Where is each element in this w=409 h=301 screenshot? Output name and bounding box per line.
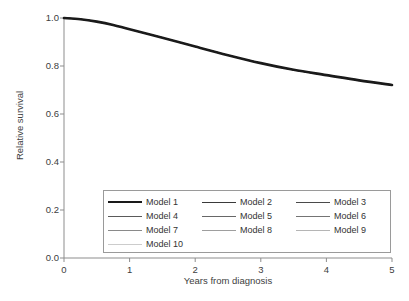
legend-item: Model 5: [200, 211, 294, 221]
legend-label: Model 4: [146, 211, 178, 221]
legend-grid: Model 1Model 2Model 3Model 4Model 5Model…: [106, 195, 388, 251]
legend-line-swatch: [202, 202, 236, 203]
legend-item: Model 10: [106, 239, 200, 249]
x-tick-label: 5: [382, 264, 402, 275]
x-axis-title: Years from diagnosis: [64, 275, 392, 286]
y-tick-label: 0.6: [33, 108, 59, 119]
legend-line-swatch: [202, 230, 236, 231]
legend-line-swatch: [108, 230, 142, 231]
legend-line-swatch: [296, 216, 330, 217]
series-line: [64, 18, 392, 85]
y-tick-label: 0.0: [33, 252, 59, 263]
legend-item: Model 8: [200, 225, 294, 235]
legend-line-swatch: [202, 216, 236, 217]
x-tick-label: 3: [251, 264, 271, 275]
legend-label: Model 1: [146, 197, 178, 207]
legend-label: Model 2: [240, 197, 272, 207]
x-tick-label: 0: [54, 264, 74, 275]
series-line: [64, 18, 392, 85]
legend-item: Model 9: [294, 225, 388, 235]
legend-label: Model 3: [334, 197, 366, 207]
plot-canvas: [0, 0, 409, 301]
legend-item: Model 1: [106, 197, 200, 207]
legend-item: Model 6: [294, 211, 388, 221]
y-tick-label: 0.4: [33, 156, 59, 167]
series-line: [64, 18, 392, 85]
relative-survival-chart: 0.00.20.40.60.81.0 012345 Relative survi…: [0, 0, 409, 301]
legend-line-swatch: [296, 202, 330, 203]
legend-label: Model 6: [334, 211, 366, 221]
legend-label: Model 7: [146, 225, 178, 235]
legend-item: Model 3: [294, 197, 388, 207]
legend-item: Model 2: [200, 197, 294, 207]
legend-line-swatch: [108, 216, 142, 217]
legend-box: Model 1Model 2Model 3Model 4Model 5Model…: [103, 190, 391, 253]
y-axis-title: Relative survival: [14, 76, 25, 176]
y-tick-label: 1.0: [33, 12, 59, 23]
legend-line-swatch: [108, 201, 142, 203]
series-line: [64, 18, 392, 85]
legend-label: Model 8: [240, 225, 272, 235]
legend-label: Model 10: [146, 239, 183, 249]
series-line: [64, 18, 392, 85]
legend-line-swatch: [108, 244, 142, 245]
legend-label: Model 9: [334, 225, 366, 235]
x-tick-label: 2: [185, 264, 205, 275]
legend-item: Model 7: [106, 225, 200, 235]
legend-label: Model 5: [240, 211, 272, 221]
x-tick-label: 1: [120, 264, 140, 275]
x-tick-label: 4: [316, 264, 336, 275]
series-line: [64, 18, 392, 85]
series-line: [64, 18, 392, 85]
legend-line-swatch: [296, 230, 330, 231]
series-line: [64, 18, 392, 85]
series-lines: [64, 18, 392, 85]
y-tick-label: 0.8: [33, 60, 59, 71]
legend-item: Model 4: [106, 211, 200, 221]
y-tick-label: 0.2: [33, 204, 59, 215]
series-line: [64, 18, 392, 85]
series-line: [64, 18, 392, 85]
